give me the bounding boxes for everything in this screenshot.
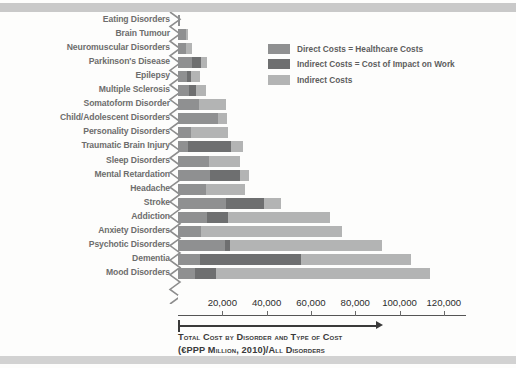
caption-line-1: Total Cost by Disorder and Type of Cost (178, 331, 478, 344)
bar-row (178, 156, 466, 167)
bar-segment (178, 127, 191, 138)
legend-swatch (268, 44, 290, 54)
category-label: Neuromuscular Disorders (2, 42, 170, 53)
legend-swatch (268, 75, 290, 85)
bar-segment (226, 198, 264, 209)
bar-row (178, 15, 466, 26)
bar-segment (206, 184, 245, 195)
bar-segment (210, 170, 240, 181)
axis-tick-mark (355, 311, 356, 316)
bar-row (178, 212, 466, 223)
category-axis-labels: Eating DisordersBrain TumourNeuromuscula… (0, 15, 170, 295)
bar-segment (189, 85, 197, 96)
axis-tick-label: 20,000 (208, 297, 237, 308)
category-label: Mental Retardation (2, 169, 170, 180)
axis-tick-mark (222, 311, 223, 316)
category-label: Addiction (2, 211, 170, 222)
axis-tick-label: 60,000 (296, 297, 325, 308)
bar-segment (201, 226, 341, 237)
bar-row (178, 113, 466, 124)
bar-row (178, 99, 466, 110)
category-label: Somatoform Disorder (2, 98, 170, 109)
category-label: Personality Disorders (2, 126, 170, 137)
bar-row (178, 127, 466, 138)
bar-segment (178, 29, 186, 40)
axis-tick-mark (400, 311, 401, 316)
bar-segment (230, 240, 382, 251)
bar-row (178, 240, 466, 251)
category-label: Dementia (2, 253, 170, 264)
bar-segment (240, 170, 249, 181)
axis-tick-mark (311, 311, 312, 316)
legend-label: Direct Costs = Healthcare Costs (297, 44, 423, 54)
bar-segment (178, 170, 210, 181)
axis-tick-label: 120,000 (427, 297, 462, 308)
category-label: Child/Adolescent Disorders (2, 112, 170, 123)
category-label: Eating Disorders (2, 14, 170, 25)
bar-row (178, 184, 466, 195)
category-label: Multiple Sclerosis (2, 84, 170, 95)
bar-row (178, 254, 466, 265)
legend-item-direct-costs: Direct Costs = Healthcare Costs (268, 42, 508, 55)
category-label: Anxiety Disorders (2, 225, 170, 236)
category-label: Headache (2, 183, 170, 194)
axis-tick-mark (267, 311, 268, 316)
legend-swatch (268, 59, 290, 69)
bar-row (178, 170, 466, 181)
legend-label: Indirect Costs = Cost of Impact on Work (297, 59, 455, 69)
bar-segment (178, 156, 209, 167)
category-label: Traumatic Brain Injury (2, 140, 170, 151)
bar-segment (301, 254, 410, 265)
bar-segment (218, 113, 228, 124)
chart-caption: Total Cost by Disorder and Type of Cost … (178, 331, 478, 356)
bar-segment (264, 198, 281, 209)
bar-segment (196, 85, 206, 96)
bar-segment (231, 141, 243, 152)
axis-arrow-head (376, 321, 383, 329)
bar-segment (178, 254, 200, 265)
category-label: Sleep Disorders (2, 155, 170, 166)
top-edge-band (0, 3, 516, 12)
bar-segment (178, 240, 225, 251)
axis-tick-mark (444, 311, 445, 316)
bar-segment (207, 212, 227, 223)
bar-row (178, 226, 466, 237)
bar-segment (195, 268, 216, 279)
bar-segment (201, 57, 207, 68)
legend-item-indirect-costs: Indirect Costs (268, 73, 508, 86)
bar-segment (178, 198, 226, 209)
category-label: Psychotic Disorders (2, 239, 170, 250)
bar-segment (192, 57, 201, 68)
category-label: Mood Disorders (2, 267, 170, 278)
bar-segment (188, 141, 231, 152)
bar-segment (191, 71, 200, 82)
bar-row (178, 198, 466, 209)
bar-segment (178, 184, 206, 195)
bar-segment (216, 268, 430, 279)
bar-segment (178, 57, 192, 68)
category-label: Parkinson's Disease (2, 56, 170, 67)
bar-row (178, 141, 466, 152)
axis-arrow-line (178, 325, 378, 327)
bar-segment (186, 29, 188, 40)
axis-tick-label: 80,000 (341, 297, 370, 308)
legend-label: Indirect Costs (297, 75, 352, 85)
axis-tick-label: 100,000 (382, 297, 417, 308)
bar-segment (178, 113, 218, 124)
bar-segment (200, 254, 301, 265)
bar-segment (228, 212, 330, 223)
bar-segment (178, 212, 207, 223)
bar-segment (178, 141, 188, 152)
caption-line-2: (€PPP Million, 2010)/All Disorders (178, 344, 478, 357)
bar-segment (199, 99, 226, 110)
bar-segment (191, 127, 228, 138)
category-label: Brain Tumour (2, 28, 170, 39)
bottom-edge-band (0, 356, 516, 364)
value-axis: 20,00040,00060,00080,000100,000120,000 (178, 295, 466, 316)
bar-segment (186, 43, 192, 54)
chart-figure: Eating DisordersBrain TumourNeuromuscula… (0, 0, 516, 368)
axis-tick-label: 40,000 (252, 297, 281, 308)
bar-row (178, 268, 466, 279)
bar-row (178, 29, 466, 40)
bar-segment (178, 268, 195, 279)
